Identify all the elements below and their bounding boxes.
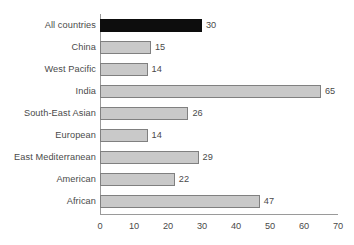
category-label: China — [0, 41, 96, 54]
bar-african — [100, 195, 260, 208]
bar-west-pacific — [100, 63, 148, 76]
bar-value-label: 65 — [325, 85, 335, 98]
bar-east-mediterranean — [100, 151, 199, 164]
bar-value-label: 15 — [155, 41, 165, 54]
category-label: African — [0, 195, 96, 208]
bar-value-label: 47 — [264, 195, 274, 208]
bar-south-east-asian — [100, 107, 188, 120]
bar-value-label: 29 — [203, 151, 213, 164]
x-tick-label: 20 — [153, 220, 183, 232]
bar-value-label: 14 — [152, 129, 162, 142]
x-tick-label: 60 — [289, 220, 319, 232]
category-label: All countries — [0, 19, 96, 32]
bar-india — [100, 85, 321, 98]
category-label: American — [0, 173, 96, 186]
x-tick-label: 30 — [187, 220, 217, 232]
x-tick-label: 10 — [119, 220, 149, 232]
category-label: East Mediterranean — [0, 151, 96, 164]
x-tick-label: 0 — [85, 220, 115, 232]
category-label: European — [0, 129, 96, 142]
x-axis-line — [100, 214, 338, 215]
bar-american — [100, 173, 175, 186]
bar-value-label: 30 — [206, 19, 216, 32]
x-tick-label: 70 — [323, 220, 353, 232]
plot-area: 30 15 14 65 26 14 29 22 47 0 10 20 30 40… — [100, 14, 338, 214]
category-label: South-East Asian — [0, 107, 96, 120]
x-tick-label: 40 — [221, 220, 251, 232]
category-label: West Pacific — [0, 63, 96, 76]
category-label: India — [0, 85, 96, 98]
bar-european — [100, 129, 148, 142]
bar-value-label: 14 — [152, 63, 162, 76]
bar-value-label: 26 — [192, 107, 202, 120]
x-tick-label: 50 — [255, 220, 285, 232]
bar-china — [100, 41, 151, 54]
bar-value-label: 22 — [179, 173, 189, 186]
bar-chart: All countries China West Pacific India S… — [0, 0, 354, 245]
bar-all-countries — [100, 19, 202, 32]
